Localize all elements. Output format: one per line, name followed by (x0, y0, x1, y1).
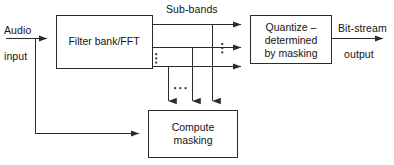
masking-ellipsis-icon (174, 87, 186, 89)
block-label-quantize-line3: by masking (250, 47, 332, 60)
label-audio: Audio (4, 24, 31, 36)
block-label-filter-bank: Filter bank/FFT (56, 35, 152, 48)
subband-ellipsis-right-icon (221, 43, 223, 53)
label-bit-stream-output: output (344, 48, 374, 60)
block-label-quantize-line2: determined (250, 34, 332, 47)
label-sub-bands: Sub-bands (166, 3, 218, 15)
subband-ellipsis-left-icon (155, 53, 157, 63)
block-label-quantize: Quantize – determined by masking (250, 21, 332, 60)
block-label-quantize-line1: Quantize – (250, 21, 332, 34)
label-audio-input: input (4, 50, 27, 62)
block-label-compute-masking-line1: Compute (148, 121, 238, 134)
block-label-compute-masking-line2: masking (148, 134, 238, 147)
label-bit-stream: Bit-stream (338, 22, 387, 34)
block-label-compute-masking: Compute masking (148, 121, 238, 147)
block-diagram-canvas: Audio input Sub-bands Bit-stream output … (0, 0, 394, 165)
block-label-filter-bank-line1: Filter bank/FFT (56, 35, 152, 48)
